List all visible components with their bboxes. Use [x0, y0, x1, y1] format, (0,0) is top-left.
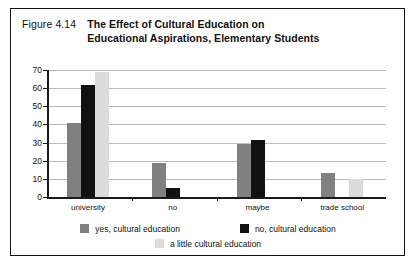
legend-entry-no: no, cultural education: [240, 224, 336, 234]
y-axis-line: [47, 70, 49, 197]
legend-swatch-no-icon: [240, 224, 249, 233]
legend-swatch-yes-icon: [80, 224, 89, 233]
legend-row-bottom: a little cultural education: [22, 236, 394, 251]
chart-legend: yes, cultural education no, cultural edu…: [22, 221, 394, 251]
y-axis-tick-label: 50: [33, 101, 42, 111]
figure-frame: Figure 4.14 The Effect of Cultural Educa…: [10, 8, 405, 256]
figure-number: Figure 4.14: [22, 18, 76, 30]
bar: [166, 188, 180, 197]
legend-label-no: no, cultural education: [255, 224, 336, 234]
bar: [321, 173, 335, 197]
y-axis-tick-label: 10: [33, 174, 42, 184]
y-axis-tick-label: 60: [33, 83, 42, 93]
chart-plot-area: 010203040506070 universitynomaybetrade s…: [47, 70, 386, 197]
figure-title-line-1: The Effect of Cultural Education on: [87, 18, 319, 32]
x-axis-tick-label: no: [168, 203, 177, 212]
x-axis-tick-label: maybe: [245, 203, 269, 212]
y-axis-tick-label: 20: [33, 156, 42, 166]
legend-label-little: a little cultural education: [170, 239, 261, 249]
bar: [349, 179, 363, 197]
y-axis-tick-label: 30: [33, 138, 42, 148]
figure-title-line-2: Educational Aspirations, Elementary Stud…: [87, 32, 319, 46]
legend-entry-yes: yes, cultural education: [80, 224, 180, 234]
figure-title: The Effect of Cultural Education on Educ…: [87, 18, 319, 45]
y-axis-tick-labels: 010203040506070: [18, 70, 42, 197]
legend-row-top: yes, cultural education no, cultural edu…: [22, 221, 394, 236]
bar: [237, 144, 251, 197]
legend-entry-little: a little cultural education: [155, 239, 261, 249]
bar: [95, 72, 109, 197]
x-axis-tick-label: university: [71, 203, 105, 212]
bar: [152, 163, 166, 197]
bar: [251, 140, 265, 197]
y-axis-tick-label: 40: [33, 119, 42, 129]
legend-swatch-little-icon: [155, 239, 164, 248]
y-axis-tick-label: 0: [37, 192, 42, 202]
x-axis-line: [47, 197, 386, 199]
figure-title-block: Figure 4.14 The Effect of Cultural Educa…: [22, 18, 394, 45]
bar: [67, 123, 81, 197]
y-axis-tick-label: 70: [33, 65, 42, 75]
bar: [81, 85, 95, 197]
x-axis-tick-label: trade school: [320, 203, 364, 212]
legend-label-yes: yes, cultural education: [95, 224, 180, 234]
